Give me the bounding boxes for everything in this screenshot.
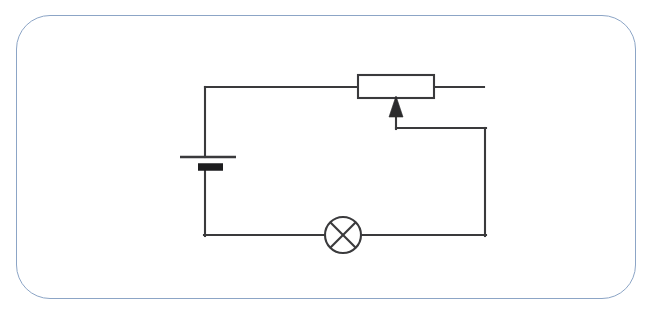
rheostat-wiper-arrow-icon <box>389 96 403 117</box>
battery-symbol <box>180 157 236 167</box>
wire-group <box>204 87 486 236</box>
lamp-symbol <box>325 217 361 253</box>
rheostat-symbol <box>358 75 434 117</box>
rheostat-body-rect <box>358 75 434 98</box>
circuit-canvas <box>0 0 654 316</box>
circuit-diagram-figure <box>0 0 654 316</box>
